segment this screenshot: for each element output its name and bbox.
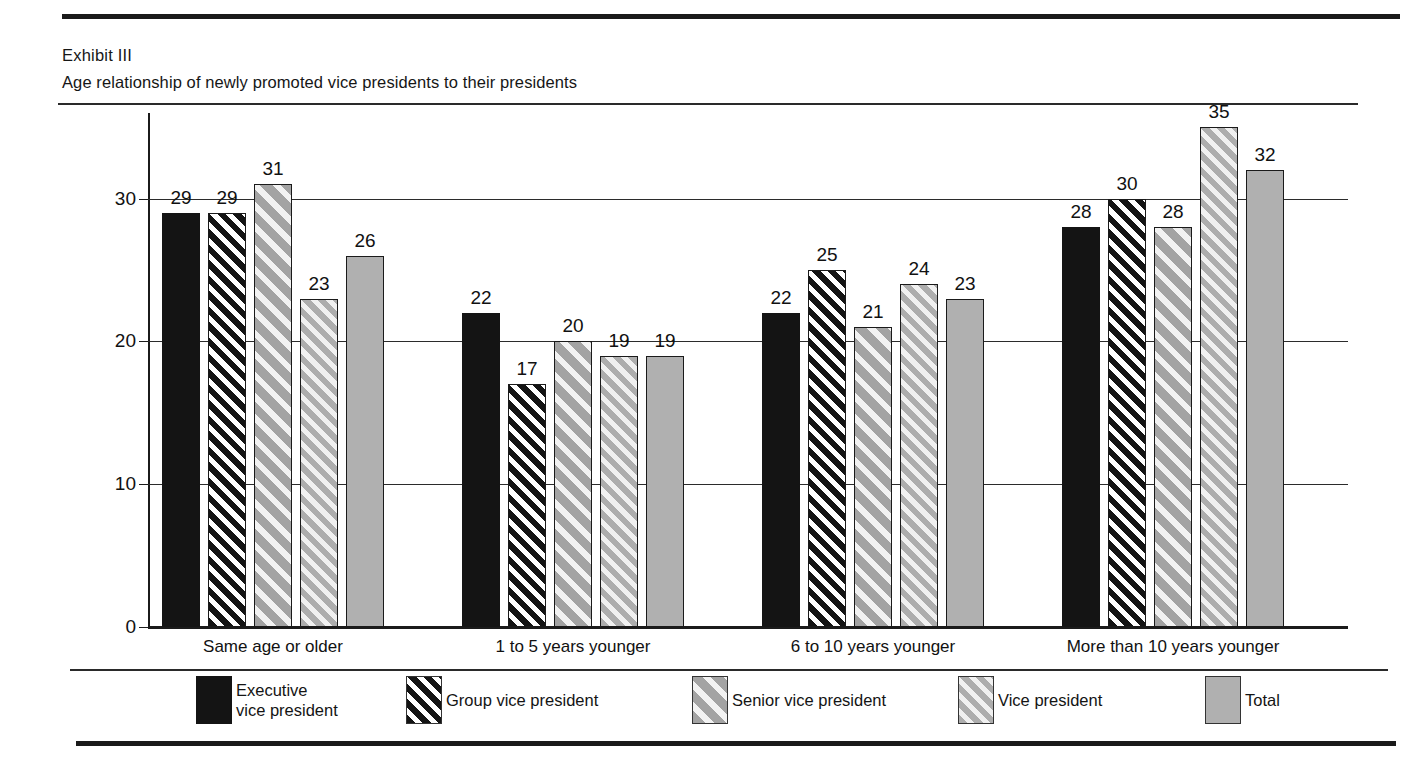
bar: [946, 299, 984, 627]
bar-value-label: 30: [1100, 173, 1154, 195]
legend-swatch-icon: [1205, 676, 1241, 724]
bar: [762, 313, 800, 627]
bar: [462, 313, 500, 627]
exhibit-label: Exhibit III: [62, 44, 962, 66]
legend-item-label: Executive vice president: [233, 680, 338, 720]
y-tick-mark-0: [139, 627, 148, 628]
y-axis-line: [148, 113, 150, 627]
x-group-label: Same age or older: [122, 637, 424, 657]
legend-item-label: Senior vice president: [729, 690, 886, 710]
legend-item: Vice president: [958, 676, 1102, 724]
y-tick-label-30: 30: [76, 188, 136, 210]
top-rule: [62, 14, 1400, 19]
x-group-label: More than 10 years younger: [1022, 637, 1324, 657]
bar-value-label: 19: [638, 330, 692, 352]
bar-value-label: 32: [1238, 144, 1292, 166]
legend-swatch-icon: [406, 676, 442, 724]
bar-value-label: 28: [1146, 201, 1200, 223]
exhibit-header: Exhibit III Age relationship of newly pr…: [62, 44, 962, 94]
bar-value-label: 23: [938, 273, 992, 295]
bar: [1062, 227, 1100, 627]
bar-value-label: 17: [500, 358, 554, 380]
bar: [346, 256, 384, 627]
bar: [854, 327, 892, 627]
bar-value-label: 23: [292, 273, 346, 295]
bar-chart-plot-area: Percentage 01020302929312326Same age or …: [148, 113, 1348, 627]
bar: [1154, 227, 1192, 627]
bar: [508, 384, 546, 627]
bar: [208, 213, 246, 627]
exhibit-page: Exhibit III Age relationship of newly pr…: [0, 0, 1416, 763]
chart-legend: Executive vice presidentGroup vice presi…: [0, 676, 1416, 738]
bar-value-label: 35: [1192, 101, 1246, 123]
legend-item: Group vice president: [406, 676, 598, 724]
bar: [600, 356, 638, 627]
bar-value-label: 26: [338, 230, 392, 252]
y-tick-mark-30: [139, 199, 148, 200]
bar: [808, 270, 846, 627]
legend-item: Total: [1205, 676, 1280, 724]
bar-value-label: 29: [200, 187, 254, 209]
bar: [1200, 127, 1238, 627]
legend-item-label: Vice president: [995, 690, 1102, 710]
x-group-label: 1 to 5 years younger: [422, 637, 724, 657]
legend-swatch-icon: [958, 676, 994, 724]
y-tick-label-10: 10: [76, 473, 136, 495]
y-tick-label-20: 20: [76, 330, 136, 352]
x-group-label: 6 to 10 years younger: [722, 637, 1024, 657]
bar: [254, 184, 292, 627]
gridline-30: [148, 199, 1348, 200]
bar: [300, 299, 338, 627]
bar-value-label: 25: [800, 244, 854, 266]
y-tick-label-0: 0: [76, 616, 136, 638]
bar-value-label: 28: [1054, 201, 1108, 223]
bar: [162, 213, 200, 627]
bar-value-label: 21: [846, 301, 900, 323]
y-tick-mark-20: [139, 341, 148, 342]
legend-item-label: Group vice president: [443, 690, 598, 710]
legend-divider-rule: [70, 669, 1388, 671]
bar: [1246, 170, 1284, 627]
legend-item-label: Total: [1242, 690, 1280, 710]
bar-value-label: 22: [754, 287, 808, 309]
bar: [900, 284, 938, 627]
bar: [1108, 199, 1146, 627]
bar-value-label: 22: [454, 287, 508, 309]
bar: [554, 341, 592, 627]
bottom-rule: [76, 741, 1396, 746]
bar-value-label: 31: [246, 158, 300, 180]
legend-swatch-icon: [692, 676, 728, 724]
exhibit-subtitle: Age relationship of newly promoted vice …: [62, 70, 962, 94]
y-tick-mark-10: [139, 484, 148, 485]
bar: [646, 356, 684, 627]
title-divider-rule: [58, 103, 1358, 105]
legend-swatch-icon: [196, 676, 232, 724]
legend-item: Senior vice president: [692, 676, 886, 724]
legend-item: Executive vice president: [196, 676, 338, 724]
